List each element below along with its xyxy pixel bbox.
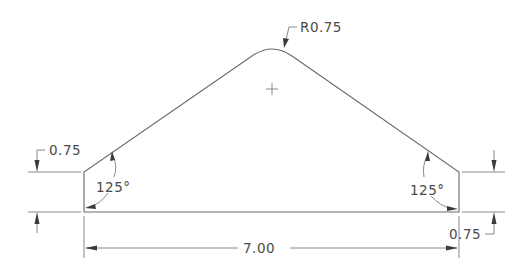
right-angle-dimension: 125° [410, 151, 458, 211]
arrow-left-icon [85, 246, 97, 251]
left-angle-label: 125° [96, 179, 131, 195]
arrow-up-icon [492, 212, 497, 224]
width-dimension: 7.00 [84, 216, 459, 258]
center-mark-icon [266, 83, 278, 95]
arrow-angle-icon [85, 204, 96, 209]
arrow-angle-icon [110, 151, 115, 161]
technical-drawing: R0.75 7.00 0.75 0.75 125° [0, 0, 529, 276]
arrow-right-icon [446, 246, 458, 251]
arrow-down-icon [35, 160, 40, 172]
radius-callout: R0.75 [283, 19, 342, 48]
right-height-dimension: 0.75 [449, 150, 505, 242]
arrow-angle-icon [425, 151, 430, 161]
left-height-label: 0.75 [49, 142, 81, 158]
left-angle-dimension: 125° [85, 151, 131, 209]
arrow-angle-icon [447, 206, 458, 211]
right-angle-label: 125° [410, 182, 445, 198]
leader-arrow-icon [283, 38, 289, 48]
part-outline [84, 49, 459, 212]
outline-path [84, 49, 459, 212]
left-height-dimension: 0.75 [28, 142, 81, 233]
arrow-down-icon [492, 160, 497, 172]
right-height-label: 0.75 [449, 226, 481, 242]
radius-label: R0.75 [300, 19, 342, 35]
width-label: 7.00 [243, 240, 275, 256]
arrow-up-icon [35, 212, 40, 224]
